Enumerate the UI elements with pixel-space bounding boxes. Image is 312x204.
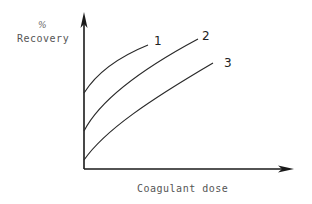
y-axis-label: Recovery <box>17 33 69 44</box>
curve-2 <box>84 39 198 131</box>
recovery-vs-dose-chart: 1 2 3 % Recovery Coagulant dose <box>0 0 312 204</box>
curve-1 <box>84 45 148 93</box>
curve-2-label: 2 <box>202 29 210 43</box>
y-axis-unit-label: % <box>38 20 47 30</box>
curve-1-label: 1 <box>154 34 162 48</box>
curve-3 <box>84 63 213 160</box>
x-axis-label: Coagulant dose <box>137 183 228 194</box>
curve-3-label: 3 <box>224 56 232 70</box>
